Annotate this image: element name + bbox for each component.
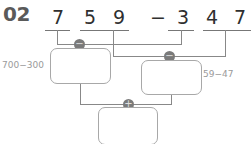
underline-tens-ones-2 [203, 30, 251, 31]
digit-tens-1: 5 [80, 6, 100, 28]
problem-number: 02 [3, 2, 30, 26]
digit-tens-2: 4 [202, 6, 222, 28]
connector-line [80, 84, 81, 104]
underline-tens-ones-1 [80, 30, 129, 31]
connector-line [171, 95, 172, 104]
minus-sign: − [148, 6, 168, 28]
connector-line [181, 30, 182, 44]
answer-box-left[interactable] [50, 48, 111, 84]
hint-left: 700−300 [2, 60, 44, 70]
connector-line [113, 30, 114, 56]
connector-line [57, 30, 58, 44]
digit-hundreds-1: 7 [48, 6, 68, 28]
digit-ones-1: 9 [109, 6, 129, 28]
digit-hundreds-2: 3 [173, 6, 193, 28]
answer-box-right[interactable] [141, 60, 202, 95]
connector-line [225, 30, 226, 56]
hint-right: 59−47 [203, 69, 233, 79]
answer-box-result[interactable] [98, 107, 158, 144]
digit-ones-2: 7 [230, 6, 250, 28]
